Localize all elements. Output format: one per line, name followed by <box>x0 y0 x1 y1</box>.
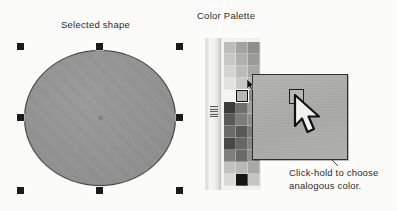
handle-middle-right[interactable] <box>176 114 183 121</box>
palette-swatch-13[interactable] <box>236 90 248 102</box>
palette-swatch-33[interactable] <box>224 174 236 186</box>
palette-swatch-31[interactable] <box>236 162 248 174</box>
handle-bottom-right[interactable] <box>176 187 183 194</box>
palette-swatch-34[interactable] <box>236 174 248 186</box>
palette-swatch-24[interactable] <box>224 138 236 150</box>
palette-swatch-30[interactable] <box>224 162 236 174</box>
color-palette-caption: Color Palette <box>197 10 255 21</box>
magnified-color-popup[interactable] <box>252 74 348 160</box>
illustration-stage: Selected shape Color Palette × <box>0 0 397 211</box>
handle-top-center[interactable] <box>96 43 103 50</box>
annotation-line-1: Click-hold to choose <box>289 166 379 179</box>
palette-swatch-21[interactable] <box>224 126 236 138</box>
handle-middle-left[interactable] <box>17 114 24 121</box>
palette-swatch-7[interactable] <box>236 66 248 78</box>
palette-swatch-27[interactable] <box>224 150 236 162</box>
palette-swatch-5[interactable] <box>248 54 260 66</box>
palette-swatch-22[interactable] <box>236 126 248 138</box>
drag-grip-icon[interactable] <box>210 106 218 117</box>
handle-bottom-left[interactable] <box>17 187 24 194</box>
palette-swatch-19[interactable] <box>236 114 248 126</box>
palette-swatch-6[interactable] <box>224 66 236 78</box>
palette-swatch-16[interactable] <box>236 102 248 114</box>
palette-swatch-18[interactable] <box>224 114 236 126</box>
selected-shape-caption: Selected shape <box>61 19 130 30</box>
annotation-line-2: analogous color. <box>289 179 379 192</box>
palette-swatch-25[interactable] <box>236 138 248 150</box>
palette-swatch-35[interactable] <box>248 174 260 186</box>
palette-swatch-15[interactable] <box>224 102 236 114</box>
palette-swatch-12[interactable] <box>224 90 236 102</box>
palette-swatch-9[interactable] <box>224 78 236 90</box>
palette-swatch-4[interactable] <box>236 54 248 66</box>
palette-swatch-28[interactable] <box>236 150 248 162</box>
palette-swatch-32[interactable] <box>248 162 260 174</box>
magnified-cursor-icon <box>293 93 327 135</box>
palette-drag-rail[interactable] <box>206 38 221 190</box>
handle-top-right[interactable] <box>176 43 183 50</box>
palette-swatch-0[interactable] <box>224 42 236 54</box>
palette-swatch-3[interactable] <box>224 54 236 66</box>
palette-swatch-2[interactable] <box>248 42 260 54</box>
shape-center-marker: × <box>96 114 105 123</box>
handle-top-left[interactable] <box>17 43 24 50</box>
palette-swatch-1[interactable] <box>236 42 248 54</box>
handle-bottom-center[interactable] <box>96 187 103 194</box>
annotation-text: Click-hold to choose analogous color. <box>289 166 379 192</box>
